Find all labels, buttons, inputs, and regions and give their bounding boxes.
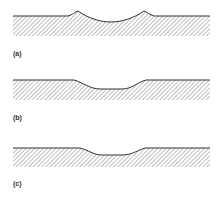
- panel-c-diagram: [13, 148, 210, 167]
- panel-b-diagram: [13, 80, 210, 100]
- figure-canvas: [0, 0, 224, 197]
- panel-c-label: (c): [13, 180, 22, 187]
- panel-a-diagram: [13, 11, 210, 36]
- panel-a-substrate: [13, 11, 210, 36]
- panel-b-substrate: [13, 80, 210, 100]
- panel-b-label: (b): [13, 114, 22, 121]
- panel-c-substrate: [13, 148, 210, 167]
- panel-a-label: (a): [13, 50, 22, 57]
